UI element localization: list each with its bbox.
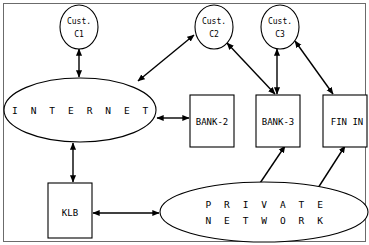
- network-diagram: Cust. C1 Cust. C2 Cust. C3 I N T E R N E…: [0, 0, 369, 245]
- cust-c2-ellipse: [195, 5, 233, 49]
- cust-c2-label-line1: Cust.: [202, 17, 226, 26]
- cust-c1-ellipse: [60, 5, 98, 49]
- cust-c2-label-line2: C2: [209, 30, 219, 39]
- private-network-label-line1: P R I V A T E: [205, 199, 326, 210]
- bank-2-label: BANK-2: [196, 117, 229, 127]
- node-internet[interactable]: I N T E R N E T: [4, 78, 156, 142]
- node-fin-in[interactable]: FIN IN: [323, 95, 367, 147]
- node-private-network[interactable]: P R I V A T E N E T W O R K: [160, 182, 368, 242]
- klb-label: KLB: [62, 208, 78, 218]
- private-network-label-line2: N E T W O R K: [205, 215, 326, 226]
- cust-c3-label-line2: C3: [275, 30, 285, 39]
- node-cust-c2[interactable]: Cust. C2: [195, 5, 233, 49]
- cust-c1-label-line2: C1: [74, 30, 84, 39]
- cust-c3-label-line1: Cust.: [268, 17, 292, 26]
- conn-cust-c2-bank-3: [227, 43, 275, 94]
- node-bank-2[interactable]: BANK-2: [190, 95, 234, 147]
- bank-3-label: BANK-3: [262, 117, 295, 127]
- conn-internet-cust-c2: [138, 35, 194, 81]
- private-network-ellipse: [160, 182, 368, 242]
- conn-cust-c3-fin-in: [295, 41, 333, 94]
- fin-in-label: FIN IN: [331, 117, 364, 127]
- node-cust-c3[interactable]: Cust. C3: [261, 5, 299, 49]
- node-cust-c1[interactable]: Cust. C1: [60, 5, 98, 49]
- cust-c3-ellipse: [261, 5, 299, 49]
- node-bank-3[interactable]: BANK-3: [256, 95, 300, 147]
- nodes-layer: Cust. C1 Cust. C2 Cust. C3 I N T E R N E…: [4, 5, 368, 242]
- internet-label: I N T E R N E T: [12, 105, 152, 116]
- cust-c1-label-line1: Cust.: [67, 17, 91, 26]
- node-klb[interactable]: KLB: [48, 183, 92, 238]
- diagram-canvas: Cust. C1 Cust. C2 Cust. C3 I N T E R N E…: [0, 0, 369, 245]
